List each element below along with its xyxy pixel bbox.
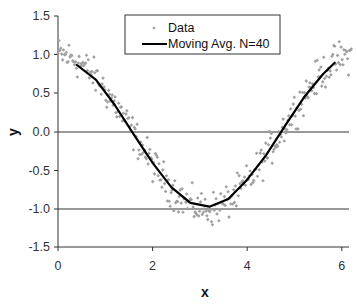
data-point [162,160,166,164]
data-point [87,58,91,62]
y-tick-label: -1.0 [28,202,50,216]
data-point [190,181,194,185]
data-point [243,175,247,179]
data-point [177,210,181,214]
data-series-scatter [56,39,353,227]
data-point [92,55,96,59]
data-point [173,179,177,183]
data-point [212,190,216,194]
x-axis-ticks [58,247,342,251]
y-tick-label: 0.5 [33,86,50,100]
data-point [131,116,135,120]
x-tick-label: 0 [55,259,62,273]
data-point [347,73,351,77]
data-point [227,215,231,219]
data-point [124,112,128,116]
data-point [235,204,239,208]
data-point [62,48,66,52]
data-point [200,192,204,196]
y-tick-label: -1.5 [28,240,50,254]
data-point [223,195,227,199]
y-tick-label: 1.0 [33,48,50,62]
data-point [113,95,117,99]
data-point [203,197,207,201]
data-point [226,190,230,194]
data-point [343,53,347,57]
data-point [156,174,160,178]
data-point [99,92,103,96]
x-tick-label: 4 [244,259,251,273]
x-tick-label: 6 [338,259,345,273]
data-point [196,196,200,200]
data-point [289,107,293,111]
data-point [151,180,155,184]
data-point [256,174,260,178]
data-point [324,85,328,89]
data-point [269,136,273,140]
data-point [211,223,215,227]
data-point [185,192,189,196]
data-point [168,204,172,208]
data-point [161,168,165,172]
data-point [169,191,173,195]
data-point [205,214,209,218]
y-tick-label: -0.5 [28,164,50,178]
data-point [110,93,114,97]
data-point [339,45,343,49]
data-point [320,84,324,88]
gridlines [58,132,349,247]
data-point [148,148,152,152]
moving-average-line [77,63,335,207]
data-point [73,63,77,67]
data-point [245,164,249,168]
data-point [293,114,297,118]
data-point [199,200,203,204]
data-point [160,185,164,189]
data-point [135,122,139,126]
data-point [165,174,169,178]
data-point [270,161,274,165]
y-tick-label: 1.5 [33,9,50,23]
y-axis [54,16,58,247]
data-point [163,182,167,186]
data-point [315,92,319,96]
data-point [157,162,161,166]
data-point [85,54,89,58]
chart: 1.5 1.0 0.5 0.0 -0.5 -1.0 -1.5 0 2 4 6 x… [0,0,357,304]
data-point [217,219,221,223]
data-point [94,88,98,92]
x-tick-label: 2 [149,259,156,273]
data-point [191,205,195,209]
data-point [281,117,285,121]
data-point [91,81,95,85]
y-tick-label: 0.0 [33,125,50,139]
data-point [322,56,326,60]
data-point [76,75,80,79]
data-point [132,148,136,152]
data-point [224,185,228,189]
legend: Data Moving Avg. N=40 [125,15,280,54]
data-point [179,201,183,205]
legend-moving-avg-label: Moving Avg. N=40 [168,37,270,51]
data-point [107,89,111,93]
data-point [164,190,168,194]
data-point [198,209,202,213]
data-point [336,54,340,58]
data-point [186,207,190,211]
x-tick-labels: 0 2 4 6 [55,259,346,273]
data-point [146,162,150,166]
data-point [302,114,306,118]
data-point [346,57,350,61]
data-point [101,76,105,80]
data-point [125,109,129,113]
data-point [60,52,64,56]
data-point [282,139,286,143]
data-point [319,65,323,69]
data-point [210,220,214,224]
data-point [137,148,141,152]
data-point [258,168,262,172]
y-tick-labels: 1.5 1.0 0.5 0.0 -0.5 -1.0 -1.5 [28,9,50,254]
data-point [145,136,149,140]
data-point [293,96,297,100]
data-point [61,58,65,62]
